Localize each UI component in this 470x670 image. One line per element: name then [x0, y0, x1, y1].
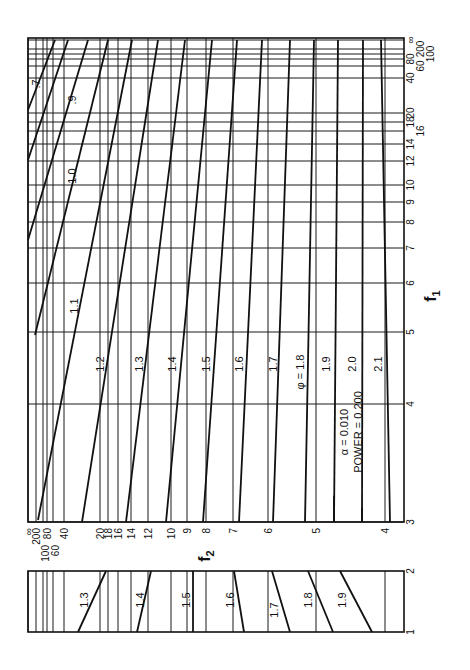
power-legend: POWER = 0.200	[352, 391, 364, 473]
svg-text:5: 5	[405, 329, 416, 335]
svg-text:5: 5	[311, 528, 322, 534]
svg-text:φ = 1.8: φ = 1.8	[294, 355, 306, 390]
svg-text:4: 4	[405, 401, 416, 407]
inset-curve-label-1.5: 1.5	[180, 592, 192, 607]
svg-text:10: 10	[405, 179, 416, 191]
svg-text:12: 12	[405, 155, 416, 167]
inset-curve-label-1.8: 1.8	[302, 592, 314, 607]
svg-text:100: 100	[425, 45, 436, 62]
f1-tick-label: 12	[405, 155, 416, 167]
curve-label-1.6: 1.6	[233, 356, 245, 371]
curve-label-1.3: 1.3	[133, 356, 145, 371]
f1-tick-label: 9	[405, 199, 416, 205]
alpha-legend: α = 0.010	[338, 409, 350, 455]
svg-text:1.3: 1.3	[78, 592, 90, 607]
inset-curve-label-1.7: 1.7	[268, 602, 280, 617]
phi-curve-1.4	[166, 40, 212, 522]
f2-tick-label: 14	[126, 528, 137, 540]
svg-text:∞: ∞	[405, 36, 416, 43]
svg-text:1.8: 1.8	[302, 592, 314, 607]
curve-label-0.9: .9	[66, 95, 78, 104]
svg-text:200: 200	[415, 40, 426, 57]
f2-tick-label: 5	[311, 528, 322, 534]
svg-text:2.0: 2.0	[346, 356, 358, 371]
phi-curve-1.3	[126, 40, 185, 522]
f2-tick-label: 4	[380, 528, 391, 534]
f1-tick-label: 6	[405, 280, 416, 286]
svg-text:1.7: 1.7	[268, 602, 280, 617]
svg-text:1.4: 1.4	[134, 592, 146, 607]
svg-text:3: 3	[405, 519, 416, 525]
phi-curve-1.2	[82, 40, 158, 522]
f2-tick-label: 6	[263, 528, 274, 534]
inset-curve-label-1.3: 1.3	[78, 592, 90, 607]
curve-label-0.7: .7	[30, 79, 42, 88]
f1-tick-label: 14	[405, 138, 416, 150]
svg-text:1.5: 1.5	[180, 592, 192, 607]
f2-tick-label: 7	[228, 528, 239, 534]
curve-label-1.5: 1.5	[200, 356, 212, 371]
f2-tick-label: 16	[113, 528, 124, 540]
f1-tick-label: 3	[405, 519, 416, 525]
phi-curve-1.0	[35, 40, 108, 335]
svg-text:6: 6	[263, 528, 274, 534]
curve-label-2.0: 2.0	[346, 356, 358, 371]
f1-axis-ticks: 3456789101214161820406080100200∞12	[405, 36, 436, 634]
f2-axis-title: f2	[196, 550, 216, 561]
svg-text:16: 16	[415, 125, 426, 137]
svg-text:7: 7	[228, 528, 239, 534]
svg-text:7: 7	[405, 245, 416, 251]
f1-tick-label: 5	[405, 329, 416, 335]
f2-tick-label: 60	[50, 545, 61, 557]
f1-tick-label: 40	[405, 72, 416, 84]
f1-tick-label: 8	[405, 219, 416, 225]
curve-label-1.9: 1.9	[320, 356, 332, 371]
svg-text:α = 0.010: α = 0.010	[338, 409, 350, 455]
svg-text:1: 1	[405, 629, 416, 635]
curve-label-1.1: 1.1	[68, 298, 80, 313]
svg-text:1.2: 1.2	[94, 356, 106, 371]
svg-text:f1: f1	[422, 290, 442, 301]
svg-text:2.1: 2.1	[372, 356, 384, 371]
f1-tick-label: 20	[405, 107, 416, 119]
svg-text:14: 14	[405, 138, 416, 150]
f1-inset-tick-label: 1	[405, 629, 416, 635]
svg-text:1.9: 1.9	[320, 356, 332, 371]
inset-curve-label-1.9: 1.9	[336, 592, 348, 607]
phi-curve-1.6	[239, 40, 262, 522]
f1-tick-label: 200	[415, 40, 426, 57]
svg-text:.7: .7	[30, 79, 42, 88]
f1-tick-label: 16	[415, 125, 426, 137]
svg-text:2: 2	[405, 568, 416, 574]
curve-label-1.2: 1.2	[94, 356, 106, 371]
inset-curve-label-1.4: 1.4	[134, 592, 146, 607]
f2-tick-label: 10	[166, 528, 177, 540]
svg-text:20: 20	[405, 107, 416, 119]
f1-tick-label: ∞	[405, 36, 416, 43]
svg-text:1.3: 1.3	[133, 356, 145, 371]
svg-text:60: 60	[50, 545, 61, 557]
svg-text:1.0: 1.0	[66, 168, 78, 183]
inset-curve-label-1.6: 1.6	[224, 592, 236, 607]
f2-tick-label: 80	[42, 528, 53, 540]
svg-text:1.6: 1.6	[233, 356, 245, 371]
svg-text:12: 12	[143, 528, 154, 540]
svg-text:80: 80	[42, 528, 53, 540]
svg-text:40: 40	[59, 528, 70, 540]
svg-text:4: 4	[380, 528, 391, 534]
f1-tick-label: 4	[405, 401, 416, 407]
phi-curve-0.7	[28, 40, 55, 110]
svg-text:1.5: 1.5	[200, 356, 212, 371]
f2-tick-label: 12	[143, 528, 154, 540]
svg-text:.9: .9	[66, 95, 78, 104]
curve-label-1.4: 1.4	[166, 356, 178, 371]
f1-tick-label: 10	[405, 179, 416, 191]
svg-text:6: 6	[405, 280, 416, 286]
curve-label-2.1: 2.1	[372, 356, 384, 371]
f1-inset-tick-label: 2	[405, 568, 416, 574]
phi-curve-1.7	[273, 40, 290, 522]
svg-text:1.9: 1.9	[336, 592, 348, 607]
svg-text:1.7: 1.7	[267, 356, 279, 371]
svg-text:10: 10	[166, 528, 177, 540]
curve-labels: .7.91.01.11.21.31.41.51.61.7φ = 1.81.92.…	[30, 79, 384, 617]
